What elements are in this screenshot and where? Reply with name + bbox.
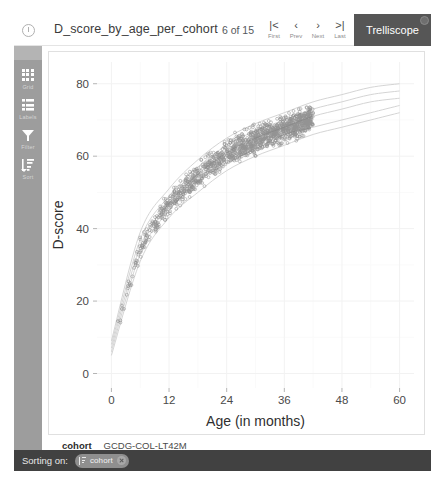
sidebar-item-filter-label: Filter [14,144,42,150]
first-page-icon: |< [263,20,285,31]
svg-text:36: 36 [278,394,291,406]
sorting-on-label: Sorting on: [22,455,68,466]
svg-text:0: 0 [108,394,114,406]
left-sidebar: Grid Labels Filter Sort [14,46,42,471]
last-page-label: Last [329,33,351,39]
sidebar-item-labels[interactable]: Labels [14,98,42,120]
svg-text:20: 20 [76,295,89,307]
info-icon[interactable] [22,24,35,37]
sort-icon [79,457,86,465]
sort-icon [21,158,35,172]
last-page-button[interactable]: >| Last [329,20,351,39]
next-page-button[interactable]: › Next [307,20,329,39]
filter-icon [21,128,35,142]
sidebar-item-grid[interactable]: Grid [14,68,42,90]
svg-text:60: 60 [76,150,89,162]
plot-card[interactable]: 01224364860020406080Age (in months)D-sco… [48,51,425,435]
prev-page-icon: ‹ [285,20,307,31]
sort-chip-label: cohort [90,456,113,465]
trelliscope-app: D_score_by_age_per_cohort 6 of 15 |< Fir… [14,14,431,471]
first-page-button[interactable]: |< First [263,20,285,39]
sidebar-item-labels-label: Labels [14,114,42,120]
prev-page-label: Prev [285,33,307,39]
sorting-bar: Sorting on: cohort [14,450,431,471]
app-header: D_score_by_age_per_cohort 6 of 15 |< Fir… [14,14,431,46]
brand-button[interactable]: Trelliscope [354,14,431,46]
close-icon[interactable] [117,456,126,465]
panel-area: 01224364860020406080Age (in months)D-sco… [42,46,431,471]
sidebar-item-grid-label: Grid [14,84,42,90]
sidebar-item-sort-label: Sort [14,174,42,180]
prev-page-button[interactable]: ‹ Prev [285,20,307,39]
grid-icon [21,68,35,82]
brand-label: Trelliscope [366,24,419,36]
svg-text:48: 48 [336,394,349,406]
svg-text:60: 60 [393,394,406,406]
next-page-icon: › [307,20,329,31]
first-page-label: First [263,33,285,39]
sidebar-item-sort[interactable]: Sort [14,158,42,180]
svg-text:40: 40 [76,223,89,235]
svg-text:D-score: D-score [50,200,66,249]
labels-icon [21,98,35,112]
svg-text:24: 24 [220,394,233,406]
sidebar-header-spacer [14,46,42,60]
svg-text:Age (in months): Age (in months) [206,413,305,429]
page-title: D_score_by_age_per_cohort [54,22,218,36]
sidebar-item-filter[interactable]: Filter [14,128,42,150]
scatter-chart: 01224364860020406080Age (in months)D-sco… [49,52,424,434]
last-page-icon: >| [329,20,351,31]
svg-text:0: 0 [83,368,89,380]
next-page-label: Next [307,33,329,39]
pagination-controls: 6 of 15 |< First ‹ Prev › Next >| Last [222,19,351,43]
help-circle-icon[interactable] [420,16,429,25]
page-count-label: 6 of 15 [222,24,254,36]
svg-text:12: 12 [163,394,176,406]
svg-text:80: 80 [76,78,89,90]
sort-chip-cohort[interactable]: cohort [75,454,129,468]
